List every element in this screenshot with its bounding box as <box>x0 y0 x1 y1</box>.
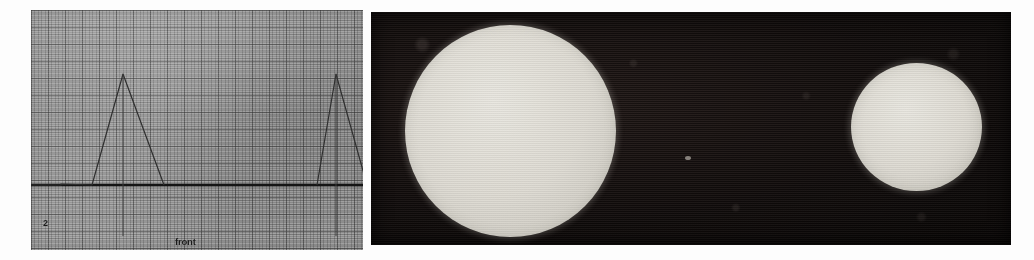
chart-recorder-panel: 2 front <box>31 10 363 250</box>
bright-spot-small <box>851 63 982 191</box>
channel-label: 2 <box>43 218 48 228</box>
bright-spot-large <box>405 25 616 237</box>
dark-field-image-panel <box>371 12 1011 245</box>
figure-container: 2 front <box>0 0 1034 260</box>
peak-1-outline <box>92 74 164 185</box>
dust-speck <box>685 156 691 160</box>
trace-plot <box>31 10 363 250</box>
front-axis-label: front <box>175 236 196 247</box>
peak-2-outline <box>317 74 363 185</box>
